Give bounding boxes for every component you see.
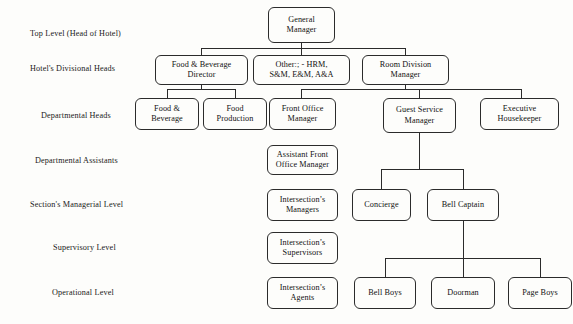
connector-bell-captain-stem: [463, 221, 464, 258]
node-other-line1: Other:; - HRM,: [269, 60, 333, 70]
node-page-boys[interactable]: Page Boys: [508, 277, 572, 309]
node-inter-mgr-line1: Intersection’s: [280, 195, 326, 205]
node-doorman-label: Doorman: [447, 288, 479, 298]
node-other-divisions[interactable]: Other:; - HRM, S&M, E&M, A&A: [253, 55, 350, 85]
node-exec-house-line2: Housekeeper: [498, 114, 542, 124]
node-asst-front-line2: Office Manager: [276, 160, 329, 170]
row-label-supervisory: Supervisory Level: [53, 243, 116, 252]
node-fb-director-line1: Food & Beverage: [172, 60, 232, 70]
node-guest-service-line2: Manager: [396, 116, 443, 126]
node-food-and-beverage[interactable]: Food & Beverage: [135, 98, 199, 130]
connector-gsm-to-bell-captain: [463, 169, 464, 189]
connector-gsm-stem: [419, 133, 420, 169]
org-chart: Top Level (Head of Hotel) Hotel's Divisi…: [0, 0, 573, 324]
connector-gsm-bus: [381, 169, 463, 170]
row-label-section-managerial: Section's Managerial Level: [30, 200, 123, 209]
node-assistant-front-office-manager[interactable]: Assistant Front Office Manager: [267, 145, 338, 175]
node-intersections-supervisors[interactable]: Intersection’s Supervisors: [267, 232, 338, 264]
node-food-prod-line1: Food: [217, 104, 254, 114]
node-bell-boys-label: Bell Boys: [368, 288, 401, 298]
connector-rdm-bus: [301, 89, 521, 90]
node-front-office-line1: Front Office: [282, 104, 324, 114]
connector-fbd-bus: [167, 89, 235, 90]
node-bell-captain[interactable]: Bell Captain: [427, 189, 499, 221]
node-page-boys-label: Page Boys: [522, 288, 558, 298]
row-label-departmental-assistants: Departmental Assistants: [35, 156, 118, 165]
node-exec-house-line1: Executive: [498, 104, 542, 114]
node-room-division-manager[interactable]: Room Division Manager: [362, 55, 449, 85]
node-food-production[interactable]: Food Production: [203, 98, 267, 130]
node-concierge-label: Concierge: [364, 200, 398, 210]
node-asst-front-line1: Assistant Front: [276, 150, 329, 160]
node-food-beverage-director[interactable]: Food & Beverage Director: [155, 55, 248, 85]
connector-fbd-to-fb: [167, 89, 168, 98]
node-room-division-line1: Room Division: [380, 60, 432, 70]
node-inter-agt-line2: Agents: [280, 293, 326, 303]
node-guest-service-line1: Guest Service: [396, 105, 443, 115]
connector-bc-to-doorman: [463, 258, 464, 278]
node-room-division-line2: Manager: [380, 70, 432, 80]
connector-rdm-to-gsm: [419, 89, 420, 98]
row-label-operational: Operational Level: [52, 288, 114, 297]
node-guest-service-manager[interactable]: Guest Service Manager: [383, 98, 456, 133]
connector-bc-to-page-boys: [540, 258, 541, 278]
node-front-office-manager[interactable]: Front Office Manager: [269, 98, 336, 130]
node-general-manager-line1: General: [287, 15, 317, 25]
node-inter-sup-line1: Intersection’s: [280, 238, 326, 248]
node-intersections-managers[interactable]: Intersection’s Managers: [267, 189, 338, 221]
connector-fbd-to-fp: [235, 89, 236, 98]
node-general-manager[interactable]: General Manager: [268, 7, 335, 43]
row-label-divisional-heads: Hotel's Divisional Heads: [30, 64, 115, 73]
node-food-prod-line2: Production: [217, 114, 254, 124]
node-bell-captain-label: Bell Captain: [442, 200, 484, 210]
row-label-departmental-heads: Departmental Heads: [41, 111, 111, 120]
node-food-bev-line1: Food &: [151, 104, 183, 114]
node-executive-housekeeper[interactable]: Executive Housekeeper: [480, 98, 559, 130]
connector-rdm-to-fom: [301, 89, 302, 98]
node-doorman[interactable]: Doorman: [431, 277, 495, 309]
connector-bc-to-bell-boys: [385, 258, 386, 278]
connector-gm-bus: [201, 48, 406, 49]
node-fb-director-line2: Director: [172, 70, 232, 80]
connector-gsm-to-concierge: [381, 169, 382, 189]
node-front-office-line2: Manager: [282, 114, 324, 124]
node-inter-agt-line1: Intersection’s: [280, 283, 326, 293]
connector-rdm-to-eh: [521, 89, 522, 98]
node-inter-mgr-line2: Managers: [280, 205, 326, 215]
node-intersections-agents[interactable]: Intersection’s Agents: [267, 277, 338, 309]
node-food-bev-line2: Beverage: [151, 114, 183, 124]
node-bell-boys[interactable]: Bell Boys: [354, 277, 416, 309]
node-other-line2: S&M, E&M, A&A: [269, 70, 333, 80]
row-label-top-level: Top Level (Head of Hotel): [30, 29, 121, 38]
node-concierge[interactable]: Concierge: [352, 189, 411, 221]
node-general-manager-line2: Manager: [287, 25, 317, 35]
node-inter-sup-line2: Supervisors: [280, 248, 326, 258]
